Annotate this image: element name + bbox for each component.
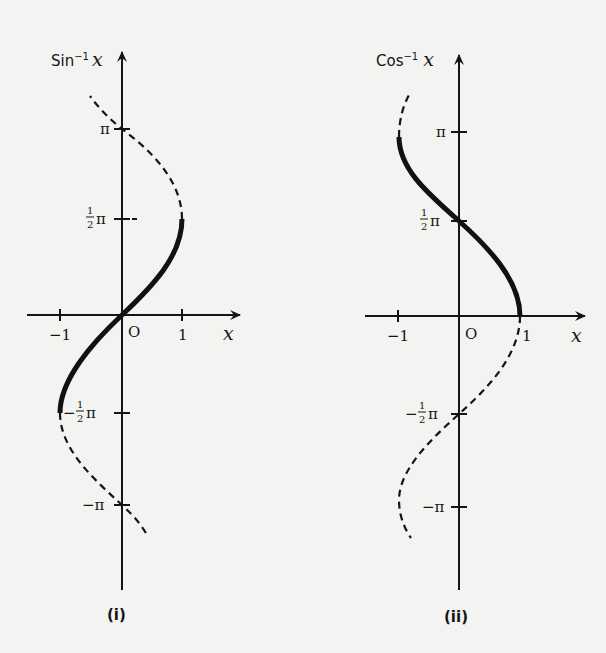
ytick-pi-label: π <box>436 123 446 141</box>
svg-text:π: π <box>86 404 96 422</box>
ytick-neg-half-pi-label: − 1 2 π <box>405 400 438 425</box>
xtick-neg1-label: −1 <box>49 326 71 344</box>
arccos-title: Cos−1x <box>376 48 434 70</box>
svg-text:2: 2 <box>87 219 93 230</box>
ytick-half-pi-label: 1 2 π <box>420 207 440 232</box>
svg-text:2: 2 <box>77 413 83 424</box>
svg-text:1: 1 <box>77 399 83 410</box>
arccos-upper-dashed-curve <box>399 95 409 137</box>
caption-i: (i) <box>107 606 126 624</box>
arcsin-title: Sin−1x <box>51 48 103 70</box>
svg-text:π: π <box>96 210 106 228</box>
ytick-half-pi-label: 1 2 π <box>86 205 106 230</box>
ytick-neg-half-pi-label: − 1 2 π <box>63 399 96 424</box>
ytick-neg-pi-label: −π <box>422 498 445 516</box>
origin-label: O <box>465 325 477 343</box>
xtick-pos1-label: 1 <box>522 327 532 345</box>
origin-label: O <box>128 323 140 341</box>
caption-ii: (ii) <box>444 608 468 626</box>
graph-arcsin: Sin−1x x O −1 1 π 1 2 π − 1 2 π −π (i) <box>27 48 240 624</box>
ytick-neg-pi-label: −π <box>82 496 105 514</box>
svg-text:2: 2 <box>421 221 427 232</box>
arcsin-lower-dashed-curve <box>60 413 147 535</box>
x-axis-label: x <box>571 324 582 346</box>
svg-text:1: 1 <box>421 207 427 218</box>
svg-text:1: 1 <box>87 205 93 216</box>
inverse-trig-graphs: Sin−1x x O −1 1 π 1 2 π − 1 2 π −π (i) <box>0 0 606 653</box>
xtick-neg1-label: −1 <box>387 327 409 345</box>
svg-text:−: − <box>63 404 76 422</box>
svg-text:−: − <box>405 405 418 423</box>
svg-text:1: 1 <box>419 400 425 411</box>
ytick-pi-label: π <box>100 120 110 138</box>
graph-arccos: Cos−1x x O −1 1 π 1 2 π − 1 2 π −π (ii) <box>365 48 585 626</box>
svg-text:2: 2 <box>419 414 425 425</box>
svg-text:π: π <box>430 212 440 230</box>
svg-text:π: π <box>428 405 438 423</box>
x-axis-label: x <box>223 322 234 344</box>
arcsin-upper-dashed-curve <box>90 96 182 219</box>
xtick-pos1-label: 1 <box>178 326 188 344</box>
